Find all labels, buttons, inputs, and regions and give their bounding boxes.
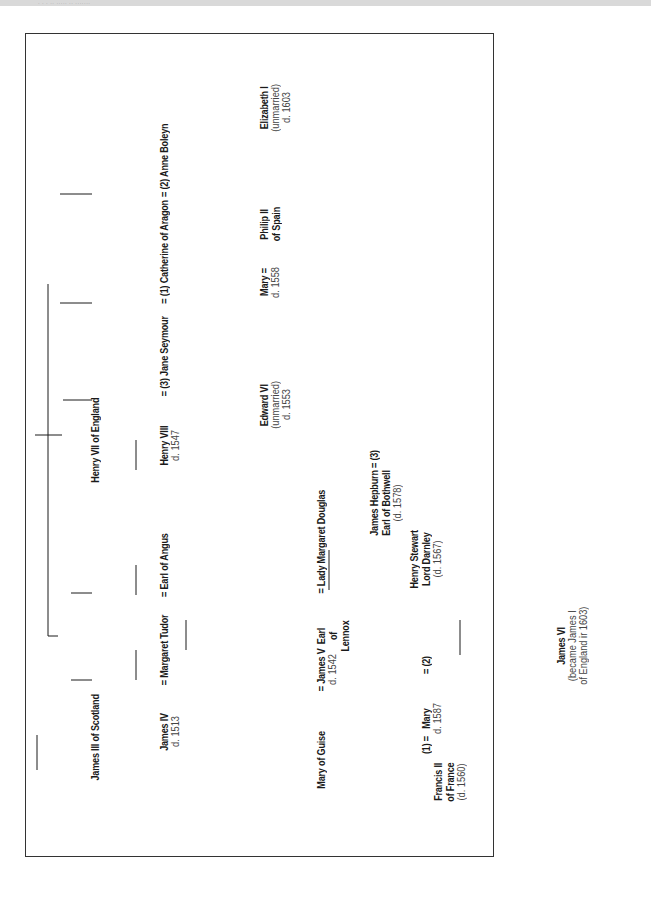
- node-francis-ii: Francis II of France (d. 1560): [432, 758, 467, 806]
- node-mary-queen-of-scots: Mary d. 1587: [420, 701, 443, 736]
- node-james-iv: James IV d. 1513: [158, 709, 181, 755]
- node-james-v: = James V d. 1542: [315, 644, 338, 696]
- node-darnley-prefix: = (2): [420, 654, 432, 676]
- node-jane-seymour: = (3) Jane Seymour: [158, 307, 170, 405]
- node-henry-stewart-darnley: Henry Stewart Lord Darnley (d. 1567): [408, 524, 443, 595]
- node-mary-prefix: (1) =: [420, 734, 432, 756]
- node-margaret-tudor: = Margaret Tudor: [158, 607, 170, 693]
- node-earl-of-angus: = Earl of Angus: [158, 526, 170, 604]
- node-james-vi: James VI (became James I of England ir 1…: [555, 601, 589, 690]
- node-mary-tudor: Mary = d. 1558: [258, 265, 281, 300]
- node-james-hepburn-bothwell: James Hepburn Earl of Bothwell (d. 1578): [368, 463, 403, 543]
- node-james-iii: James III of Scotland: [89, 685, 101, 790]
- node-mary-of-guise: Mary of Guise: [315, 725, 327, 795]
- node-catherine-of-aragon: = (1) Catherine of Aragon: [158, 189, 170, 315]
- node-henry-vii: Henry VII of England: [89, 388, 101, 492]
- node-lady-margaret-douglas: = Lady Margaret Douglas: [315, 478, 327, 605]
- node-henry-viii: Henry VIII d. 1547: [158, 421, 181, 470]
- node-elizabeth-i: Elizabeth I (unmarried) d. 1603: [258, 81, 292, 135]
- node-edward-vi: Edward VI (unmarried) d. 1553: [258, 378, 292, 432]
- node-philip-ii: Philip II of Spain: [258, 203, 282, 245]
